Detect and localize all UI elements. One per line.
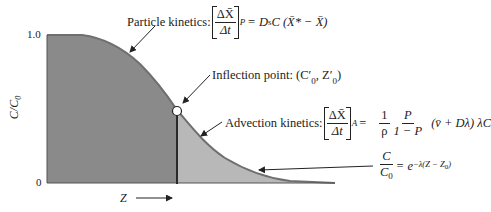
particle-bracket: ΔX̄Δt xyxy=(214,8,237,37)
inflection-point-annotation: Inflection point: (C′0, Z′0) xyxy=(212,69,341,86)
x-axis-label: Z xyxy=(120,192,127,204)
advection-bracket: ΔX̄Δt xyxy=(326,109,349,138)
y-tick-1: 1.0 xyxy=(27,29,41,40)
exponential-decay-annotation: CC0 = e−λ(Z − Z0) xyxy=(377,150,451,182)
y-axis-label: C/C0 xyxy=(8,96,23,119)
inflection-arrow xyxy=(183,75,210,103)
particle-region xyxy=(47,35,177,183)
y-tick-0: 0 xyxy=(36,177,42,188)
inflection-point-marker xyxy=(173,107,182,116)
exponential-arrow xyxy=(259,166,373,170)
advection-arrow xyxy=(201,122,222,136)
advection-kinetics-annotation: Advection kinetics: ΔX̄Δt A = 1ρ P1 − P … xyxy=(225,109,491,138)
particle-kinetics-annotation: Particle kinetics: ΔX̄Δt P = Ds C (X̄* −… xyxy=(127,8,327,37)
